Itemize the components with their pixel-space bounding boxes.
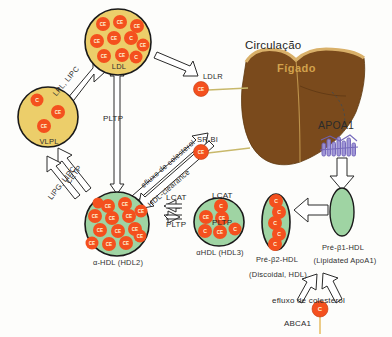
- svg-text:CE: CE: [217, 230, 223, 235]
- receptor-srbi-cargo: CE: [194, 145, 209, 160]
- svg-text:CE: CE: [140, 43, 146, 48]
- svg-text:CE: CE: [198, 87, 204, 92]
- svg-text:CE: CE: [138, 209, 144, 214]
- arrow-pltp-vertical: [110, 66, 124, 194]
- particle-label-vldl: VLPL: [24, 137, 74, 146]
- svg-text:CE: CE: [198, 150, 204, 155]
- svg-text:CE: CE: [55, 110, 61, 115]
- svg-text:C: C: [277, 209, 281, 215]
- svg-text:C: C: [35, 97, 39, 103]
- svg-text:C: C: [129, 35, 133, 41]
- svg-text:CE: CE: [111, 36, 117, 41]
- organ-label-liver: Fígado: [277, 62, 316, 74]
- enzyme-label-lcat-left: LCAT: [166, 193, 187, 202]
- particle-label-hdl2: α-HDL (HDL2): [76, 258, 160, 267]
- particle-prebeta2-hdl: CC CC C: [262, 194, 290, 251]
- particle-sublabel-prebeta2: (Discoidal, HDL): [234, 270, 322, 279]
- svg-text:C: C: [203, 228, 207, 234]
- svg-text:C: C: [219, 203, 223, 209]
- svg-text:CE: CE: [100, 22, 106, 27]
- enzyme-label-lcat-right: LCAT: [212, 191, 233, 200]
- svg-text:CE: CE: [119, 53, 125, 58]
- particle-label-ldl: LDL: [99, 62, 139, 71]
- lipoprotein-metabolism-diagram: C CE CE CECE CECE CEC CECE CEC CE CE: [0, 0, 392, 337]
- arrow-apoa1-down: [330, 158, 354, 190]
- enzyme-label-pltp-right: PLTP: [212, 218, 232, 227]
- svg-text:C: C: [274, 198, 278, 204]
- svg-text:CE: CE: [203, 215, 209, 220]
- arrow-ldl-to-ldlr: [154, 52, 198, 76]
- receptor-label-srbi: SR-BI: [197, 135, 218, 144]
- process-label-efflux-bottom: efluxo de colesterol: [272, 296, 345, 305]
- svg-text:CE: CE: [109, 216, 115, 221]
- apoa1-protein-structure: [320, 135, 358, 156]
- svg-text:CE: CE: [132, 227, 138, 232]
- particle-label-prebeta1: Pré-β1-HDL: [312, 243, 374, 252]
- particle-hdl2: CECE CECE CECE CECE CECE CECE CE: [85, 192, 149, 256]
- svg-text:CE: CE: [105, 204, 111, 209]
- enzyme-label-pltp-left: PLTP: [166, 220, 186, 229]
- svg-text:CE: CE: [137, 234, 143, 239]
- transporter-label-abca1: ABCA1: [284, 319, 311, 328]
- svg-text:CE: CE: [123, 241, 129, 246]
- svg-text:CE: CE: [101, 54, 107, 59]
- particle-prebeta1-hdl: [330, 188, 354, 236]
- arrow-prebeta1-to-prebeta2: [294, 198, 328, 222]
- svg-text:CE: CE: [126, 214, 132, 219]
- svg-text:C: C: [273, 220, 277, 226]
- particle-sublabel-prebeta1: (Lipidated ApoA1): [302, 256, 388, 265]
- svg-text:C: C: [134, 54, 138, 60]
- svg-text:CE: CE: [115, 229, 121, 234]
- svg-text:CE: CE: [117, 20, 123, 25]
- protein-label-apoa1: APOA1: [318, 119, 354, 131]
- svg-text:CE: CE: [122, 202, 128, 207]
- svg-text:C: C: [233, 226, 237, 232]
- svg-text:CE: CE: [106, 242, 112, 247]
- enzyme-label-pltp-center: PLTP: [103, 114, 123, 123]
- svg-text:C: C: [273, 241, 277, 247]
- svg-text:CE: CE: [97, 228, 103, 233]
- compartment-label-circulation: Circulação: [245, 39, 301, 51]
- diagram-graphics: C CE CE CECE CECE CEC CECE CEC CE CE: [0, 0, 392, 337]
- svg-text:CE: CE: [94, 39, 100, 44]
- svg-text:C: C: [318, 306, 323, 312]
- receptor-label-ldlr: LDLR: [203, 72, 223, 81]
- abca1-cholesterol: C: [312, 301, 328, 334]
- svg-text:C: C: [277, 231, 281, 237]
- svg-text:CE: CE: [134, 24, 140, 29]
- svg-text:CE: CE: [92, 214, 98, 219]
- receptor-ldlr-cargo: CE: [194, 82, 209, 97]
- svg-text:CE: CE: [89, 241, 95, 246]
- svg-text:CE: CE: [41, 124, 47, 129]
